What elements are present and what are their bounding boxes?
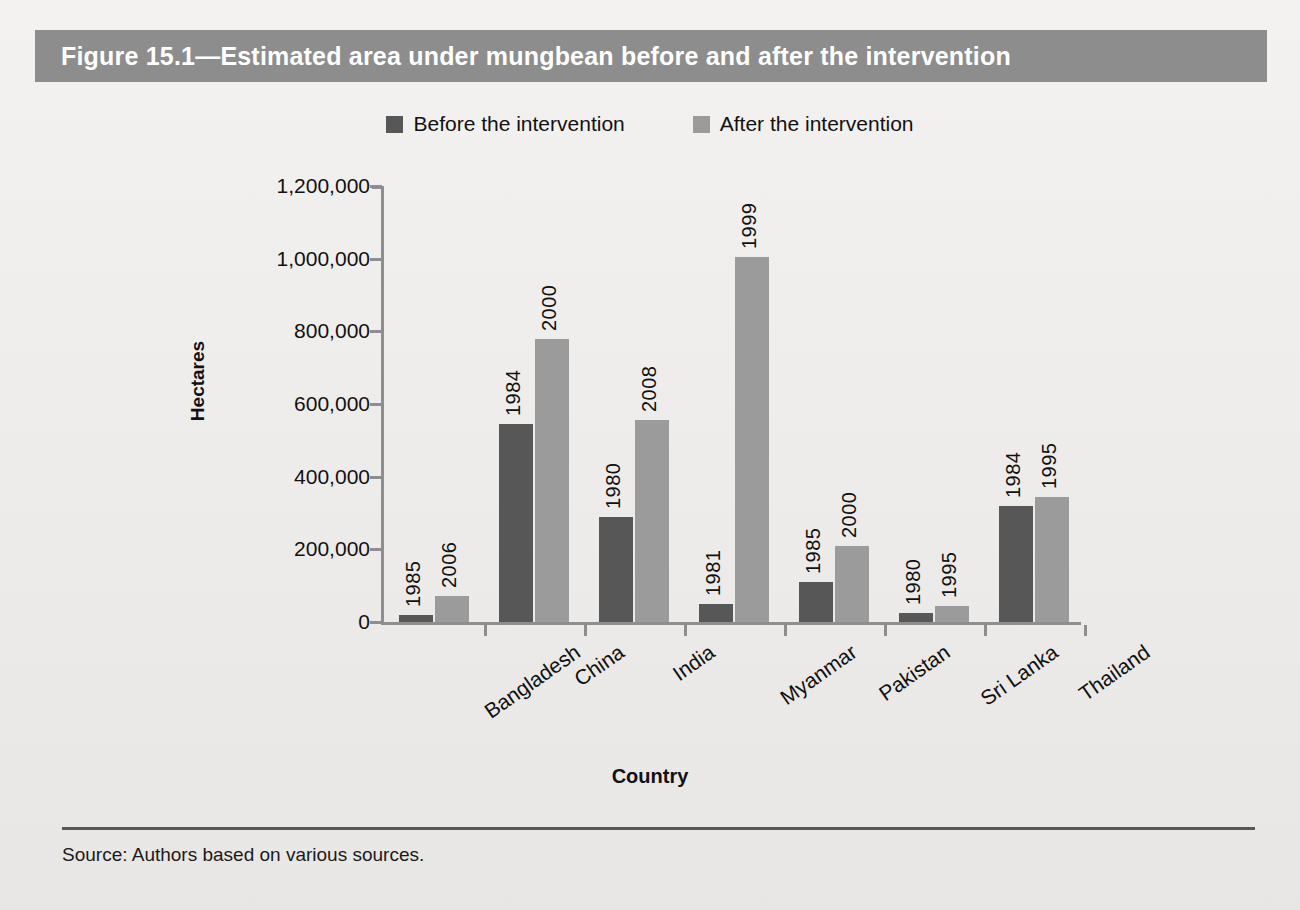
bar-china-after [535,339,569,622]
bar-thailand-after [1035,497,1069,622]
y-tick-mark [370,258,382,261]
bar-china-before [499,424,533,622]
y-tick-label: 200,000 [240,537,380,561]
bar-india-after [635,420,669,622]
bar-value-label: 1980 [602,462,625,509]
source-note: Source: Authors based on various sources… [62,844,424,866]
category-label-india: India [668,640,719,686]
y-tick-mark [370,548,382,551]
y-tick-label: 400,000 [240,465,380,489]
bar-thailand-before [999,506,1033,622]
x-tick-mark [984,625,987,636]
x-tick-mark [584,625,587,636]
bar-value-label: 1995 [938,551,961,598]
bar-myanmar-before [699,604,733,622]
bar-value-label: 2006 [438,541,461,588]
bar-value-label: 1981 [702,549,725,596]
x-tick-mark [884,625,887,636]
y-tick-mark [370,403,382,406]
bar-value-label: 1984 [502,369,525,416]
category-label-myanmar: Myanmar [776,640,861,710]
category-label-sri-lanka: Sri Lanka [976,640,1062,711]
bar-pakistan-before [799,582,833,622]
x-axis-title: Country [0,765,1300,788]
bar-myanmar-after [735,257,769,622]
bar-sri-lanka-after [935,606,969,622]
x-tick-mark [684,625,687,636]
bar-value-label: 2000 [538,285,561,332]
category-label-bangladesh: Bangladesh [480,640,585,723]
y-tick-mark [370,330,382,333]
bar-value-label: 1985 [402,560,425,607]
y-tick-label: 0 [240,610,380,634]
bar-bangladesh-after [435,596,469,622]
bar-value-label: 1985 [802,528,825,575]
bar-value-label: 1980 [902,558,925,605]
y-tick-mark [370,476,382,479]
source-divider [62,827,1255,830]
bar-value-label: 1995 [1038,442,1061,489]
y-tick-label: 600,000 [240,392,380,416]
figure-page: Figure 15.1—Estimated area under mungbea… [0,0,1300,910]
bar-value-label: 1999 [738,202,761,249]
bar-value-label: 2000 [838,491,861,538]
bar-bangladesh-before [399,615,433,622]
category-label-thailand: Thailand [1075,640,1155,706]
y-tick-mark [370,185,382,188]
y-axis-title: Hectares [187,316,209,446]
bar-value-label: 2008 [638,365,661,412]
chart-plot-area: Hectares 0200,000400,000600,000800,0001,… [0,0,1300,910]
category-label-pakistan: Pakistan [875,640,955,706]
bar-sri-lanka-before [899,613,933,622]
y-tick-label: 1,000,000 [240,247,380,271]
x-tick-mark [1084,625,1087,636]
bars-layer: 1985200619842000198020081981199919852000… [384,186,1084,622]
category-label-china: China [570,640,629,691]
bar-india-before [599,517,633,622]
bar-pakistan-after [835,546,869,622]
y-tick-label: 800,000 [240,319,380,343]
y-tick-label: 1,200,000 [240,174,380,198]
bar-value-label: 1984 [1002,452,1025,499]
x-tick-mark [484,625,487,636]
x-tick-mark [784,625,787,636]
